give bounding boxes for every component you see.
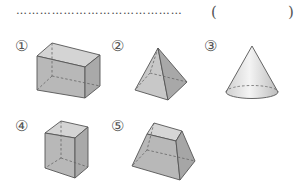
cuboid-shape <box>37 43 100 98</box>
pyramid-shape <box>135 48 187 100</box>
frustum-shape <box>132 123 195 180</box>
shapes-canvas <box>0 0 299 190</box>
cube-shape <box>45 121 88 178</box>
cone-shape <box>226 46 278 99</box>
